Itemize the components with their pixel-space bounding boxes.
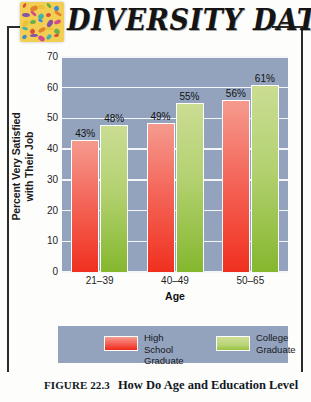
plot-area: 43%48%49%55%56%61%: [62, 57, 288, 272]
figure-caption: FIGURE 22.3How Do Age and Education Leve…: [44, 378, 306, 393]
bar-value-label: 48%: [104, 113, 124, 124]
x-axis-title: Age: [62, 290, 288, 302]
bar-value-label: 43%: [75, 128, 95, 139]
y-axis-tick-label: 60: [30, 82, 58, 93]
x-axis-tick-label: 40–49: [139, 275, 211, 286]
x-axis-tick-label: 50–65: [214, 275, 286, 286]
gridline: [62, 56, 288, 58]
diversity-mosaic-icon: [20, 2, 64, 42]
bar-value-label: 55%: [179, 91, 199, 102]
figure-number: FIGURE 22.3: [44, 379, 110, 391]
y-axis-tick-label: 0: [30, 266, 58, 277]
bar-high-school: 49%: [147, 123, 175, 272]
y-axis-tick-label: 70: [30, 51, 58, 62]
bar-value-label: 61%: [255, 73, 275, 84]
y-axis-tick-label: 30: [30, 174, 58, 185]
bar-value-label: 49%: [150, 111, 170, 122]
bar-college: 61%: [251, 85, 279, 272]
legend-swatch: [216, 336, 250, 351]
banner-header: DIVERSITY DATA: [0, 0, 311, 44]
banner-title: DIVERSITY DATA: [67, 1, 277, 40]
y-axis-title-line2: with Their Job: [22, 132, 34, 202]
legend-swatch: [104, 336, 138, 351]
y-axis-tick-label: 20: [30, 205, 58, 216]
x-axis-tick-label: 21–39: [64, 275, 136, 286]
y-axis-title-line1: Percent Very Satisfied: [10, 112, 22, 220]
y-axis-tick-label: 40: [30, 143, 58, 154]
bar-chart: Percent Very Satisfied with Their Job 70…: [0, 44, 311, 369]
chart-legend: High School GraduateCollege Graduate: [58, 326, 288, 363]
legend-label: High School Graduate: [144, 332, 184, 367]
y-axis-title: Percent Very Satisfied with Their Job: [10, 87, 35, 247]
legend-label: College Graduate: [256, 332, 296, 355]
bar-high-school: 56%: [222, 100, 250, 272]
bar-high-school: 43%: [71, 140, 99, 272]
y-axis-tick-label: 10: [30, 235, 58, 246]
figure-caption-text: How Do Age and Education Level: [118, 378, 298, 392]
bar-value-label: 56%: [226, 88, 246, 99]
bar-college: 48%: [100, 125, 128, 272]
y-axis-tick-label: 50: [30, 112, 58, 123]
bar-college: 55%: [176, 103, 204, 272]
